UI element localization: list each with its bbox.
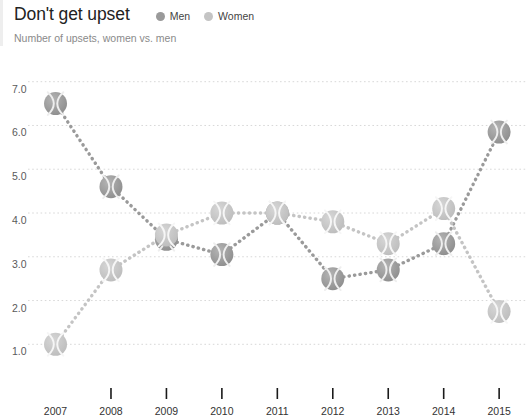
line-chart-svg: 1.02.03.04.05.06.07.0 200720082009201020… [0, 52, 529, 419]
chart-legend: Men Women [156, 7, 254, 22]
tennis-ball-icon [44, 333, 67, 356]
x-axis-tick-label: 2011 [266, 405, 289, 417]
y-axis-tick-label: 5.0 [12, 170, 27, 182]
y-axis-tick-label: 3.0 [12, 258, 27, 270]
chart-subtitle: Number of upsets, women vs. men [14, 32, 529, 44]
legend-label-men: Men [170, 10, 190, 22]
x-axis-tick-label: 2012 [321, 405, 345, 417]
legend-dot-icon [204, 12, 213, 21]
tennis-ball-icon [488, 121, 511, 144]
legend-item-women[interactable]: Women [204, 10, 254, 22]
x-axis-tick-label: 2014 [432, 405, 456, 417]
x-axis-tick-label: 2013 [377, 405, 401, 417]
chart-plot-area: 1.02.03.04.05.06.07.0 200720082009201020… [0, 52, 529, 419]
legend-dot-icon [156, 12, 165, 21]
tennis-ball-icon [99, 258, 122, 281]
left-edge-rule [0, 0, 3, 46]
series-line-segment [56, 104, 111, 187]
title-row: Don't get upset Men Women [14, 4, 529, 25]
y-axis-tick-label: 6.0 [12, 126, 27, 138]
x-axis-tick-label: 2007 [44, 405, 68, 417]
y-axis-tick-label: 1.0 [12, 345, 27, 357]
tennis-ball-icon [44, 92, 67, 115]
x-axis-labels: 200720082009201020112012201320142015 [44, 405, 511, 417]
tennis-ball-icon [432, 232, 455, 255]
tennis-ball-icon [210, 202, 233, 225]
tennis-ball-icon [266, 202, 289, 225]
tennis-ball-icon [99, 175, 122, 198]
tennis-ball-icon [377, 232, 400, 255]
tennis-ball-icon [321, 267, 344, 290]
legend-label-women: Women [218, 10, 254, 22]
x-axis-tick-label: 2009 [155, 405, 179, 417]
y-axis-tick-label: 4.0 [12, 214, 27, 226]
series-markers [44, 92, 511, 356]
y-axis-labels: 1.02.03.04.05.06.07.0 [12, 83, 27, 358]
tennis-ball-icon [377, 258, 400, 281]
tennis-ball-icon [210, 243, 233, 266]
tennis-ball-icon [155, 223, 178, 246]
x-axis-tick-label: 2010 [210, 405, 234, 417]
series-line-segment [444, 209, 499, 312]
y-axis-tick-label: 2.0 [12, 302, 27, 314]
x-axis-tick-label: 2015 [487, 405, 511, 417]
y-axis-tick-label: 7.0 [12, 83, 27, 95]
x-axis-ticks [111, 388, 499, 399]
series-line-segment [444, 132, 499, 244]
legend-item-men[interactable]: Men [156, 10, 190, 22]
x-axis-tick-label: 2008 [99, 405, 123, 417]
tennis-ball-icon [321, 210, 344, 233]
tennis-ball-icon [432, 197, 455, 220]
page-title: Don't get upset [14, 4, 130, 25]
chart-header: Don't get upset Men Women Number of upse… [14, 4, 529, 52]
tennis-ball-icon [488, 300, 511, 323]
